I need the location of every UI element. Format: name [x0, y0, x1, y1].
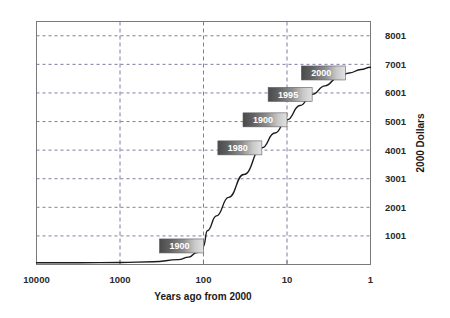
data-point-label-2000: 2000: [301, 66, 345, 80]
y-tick-label-4001: 4001: [385, 145, 407, 156]
y-axis-tick-labels: 10012001300140015001600170018001: [385, 30, 407, 241]
y-tick-label-2001: 2001: [385, 202, 407, 213]
x-axis-tick-labels: 100001000100101: [23, 274, 374, 285]
label-text: 1900: [253, 115, 273, 125]
x-tick-label-10: 10: [282, 274, 293, 285]
y-axis-title: 2000 Dollars: [415, 113, 426, 172]
x-tick-label-1: 1: [368, 274, 374, 285]
y-tick-label-7001: 7001: [385, 59, 407, 70]
y-tick-label-5001: 5001: [385, 116, 407, 127]
y-tick-label-6001: 6001: [385, 87, 407, 98]
x-tick-label-10000: 10000: [23, 274, 49, 285]
data-point-label-1980: 1980: [218, 141, 262, 155]
data-point-labels: 19001980190019952000: [160, 66, 346, 253]
label-text: 1980: [228, 143, 248, 153]
data-point-label-1900: 1900: [160, 239, 204, 253]
label-text: 1995: [278, 90, 298, 100]
y-tick-label-3001: 3001: [385, 173, 407, 184]
chart-container: 10012001300140015001600170018001 1000010…: [0, 0, 450, 318]
label-text: 2000: [311, 68, 331, 78]
x-tick-label-100: 100: [196, 274, 212, 285]
x-tick-label-1000: 1000: [109, 274, 130, 285]
y-tick-label-8001: 8001: [385, 30, 407, 41]
data-point-label-1900: 1900: [243, 113, 287, 127]
chart-svg: 10012001300140015001600170018001 1000010…: [0, 0, 450, 318]
y-tick-label-1001: 1001: [385, 230, 407, 241]
data-point-label-1995: 1995: [268, 87, 312, 101]
label-text: 1900: [169, 241, 189, 251]
x-axis-title: Years ago from 2000: [154, 291, 252, 302]
